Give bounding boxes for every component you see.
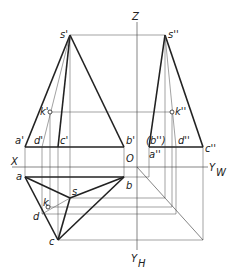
point-k-front xyxy=(48,110,52,114)
x-axis-label: X xyxy=(10,156,19,167)
label-k-side: k'' xyxy=(175,106,186,117)
label-c-side: c'' xyxy=(205,143,216,154)
diagonal-45-line xyxy=(137,167,203,240)
label-k-front: k' xyxy=(40,106,49,117)
label-a-top: a xyxy=(16,171,22,182)
top-edge-sa xyxy=(25,177,70,198)
label-d-front: d' xyxy=(34,135,43,146)
label-b-side: (b'') xyxy=(146,135,166,146)
label-b-top: b xyxy=(126,180,132,191)
top-edge-bc xyxy=(58,177,124,240)
yw-axis-label: Y xyxy=(209,162,216,173)
z-axis-label: Z xyxy=(131,11,140,22)
label-a-side: a'' xyxy=(149,149,161,160)
label-c-top: c xyxy=(49,236,55,247)
label-s-top: s xyxy=(72,186,77,197)
label-a-front: a' xyxy=(15,135,24,146)
label-s-side: s'' xyxy=(168,29,179,40)
yw-axis-subscript: W xyxy=(216,167,227,178)
label-d-top: d xyxy=(33,211,40,222)
side-edge-sa xyxy=(149,35,165,147)
projection-diagram: Z X O Y W Y H s' a' d' c' b' k' s'' (b''… xyxy=(0,0,228,272)
origin-label: O xyxy=(126,153,134,164)
top-edge-sb xyxy=(70,177,124,198)
front-edge-sb xyxy=(70,35,124,147)
label-b-front: b' xyxy=(126,135,135,146)
label-c-front: c' xyxy=(60,135,68,146)
top-edge-ac xyxy=(25,177,58,240)
yh-axis-label: Y xyxy=(131,253,138,264)
yh-axis-subscript: H xyxy=(138,258,146,269)
label-d-side: d'' xyxy=(178,135,190,146)
label-s-front: s' xyxy=(60,29,68,40)
point-k-side xyxy=(170,110,174,114)
front-line-sd xyxy=(42,35,70,147)
